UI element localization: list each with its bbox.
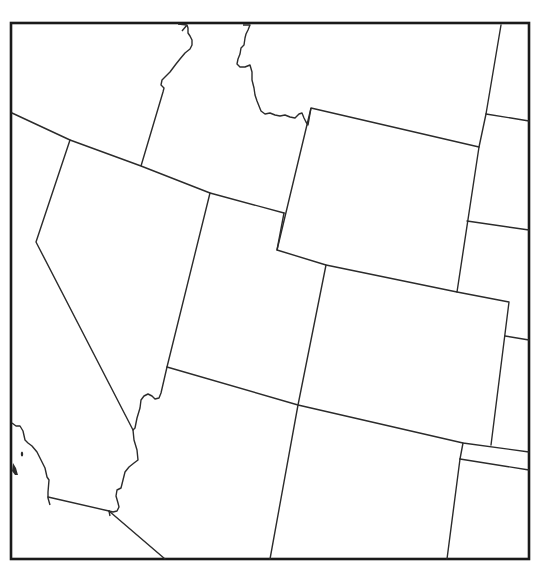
island-catalina [21, 451, 23, 456]
map-canvas [0, 0, 541, 565]
